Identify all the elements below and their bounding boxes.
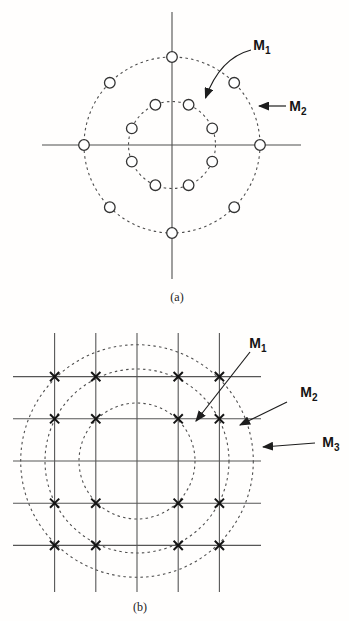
signal-point-circle [229,202,240,213]
signal-point-circle [105,202,116,213]
label-m2-a-subscript: 2 [301,106,307,117]
signal-point-circle [127,156,138,167]
signal-point-circle [79,140,90,151]
label-m1-panel-a: M1 [253,37,271,53]
panel-b-graphics [13,333,315,592]
m2-arrow-b [240,402,287,425]
label-m2-b-text: M [300,384,312,400]
signal-point-circle [255,140,266,151]
signal-point-circle [167,52,178,63]
constellation-figure-canvas [0,0,349,621]
figure-page: M1 M2 (a) M1 M2 M3 (b) [0,0,349,621]
label-m1-a-text: M [253,37,265,53]
label-m2-panel-a: M2 [289,98,307,114]
m3-arrow-b [263,443,315,447]
label-m3-b-text: M [322,434,334,450]
signal-point-circle [229,78,240,89]
label-m1-panel-b: M1 [249,335,267,351]
label-m3-panel-b: M3 [322,434,340,450]
label-m1-a-subscript: 1 [265,45,271,56]
signal-point-circle [207,156,218,167]
signal-point-circle [127,123,138,134]
m1-arrow-a [206,50,252,98]
signal-point-circle [150,180,161,191]
label-m2-a-text: M [289,98,301,114]
signal-point-circle [105,78,116,89]
signal-point-circle [183,180,194,191]
signal-point-circle [150,100,161,111]
caption-panel-b: (b) [133,600,147,615]
label-m2-b-subscript: 2 [312,392,318,403]
signal-point-circle [183,100,194,111]
caption-panel-a: (a) [170,290,183,305]
signal-point-circle [207,123,218,134]
label-m2-panel-b: M2 [300,384,318,400]
label-m1-b-text: M [249,335,261,351]
label-m3-b-subscript: 3 [334,442,340,453]
label-m1-b-subscript: 1 [261,343,267,354]
signal-point-circle [167,228,178,239]
